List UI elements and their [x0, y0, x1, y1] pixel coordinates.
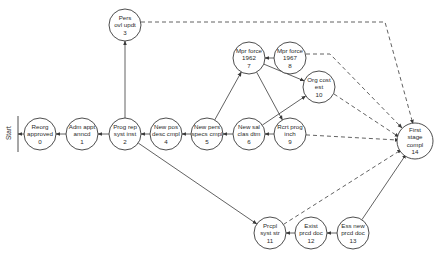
node-0: Reorgapproved0: [24, 118, 56, 150]
node-label: 9: [288, 138, 292, 145]
node-label: approved: [27, 130, 53, 137]
edge-2-11: [138, 143, 257, 224]
node-13: Ess newprcd doc13: [337, 217, 369, 249]
node-10: Org costest10: [303, 71, 335, 103]
start-label: Start: [5, 126, 12, 140]
node-label: 11: [267, 237, 274, 244]
node-label: 6: [247, 138, 251, 145]
node-label: syst str: [260, 229, 280, 236]
edge-5-7: [215, 72, 242, 120]
nodes: Reorgapproved0Adm apptanncd1Prog repsyst…: [24, 9, 433, 249]
node-label: 5: [205, 138, 209, 145]
node-3: Persovl updt3: [109, 9, 141, 41]
node-label: 8: [288, 62, 292, 69]
node-label: Prog rep: [113, 123, 137, 130]
node-label: compl: [407, 141, 424, 148]
node-label: prcd doc: [341, 229, 365, 236]
node-9: Rcrt proginch9: [274, 118, 306, 150]
node-label: New pers: [194, 123, 220, 130]
node-label: New pos: [154, 123, 178, 130]
node-8: Mpr force19678: [274, 42, 306, 74]
node-7: Mpr force19627: [233, 42, 265, 74]
node-label: 13: [350, 237, 357, 244]
node-label: inch: [284, 130, 296, 137]
node-label: 12: [308, 237, 315, 244]
node-label: Prcpl: [263, 222, 277, 229]
node-label: 14: [412, 148, 419, 155]
node-12: Existprcd doc12: [295, 217, 327, 249]
node-label: ovl updt: [114, 21, 136, 28]
start-marker: Start: [5, 116, 18, 152]
network-diagram: Start Reorgapproved0Adm apptanncd1Prog r…: [0, 0, 435, 258]
node-label: 7: [247, 62, 251, 69]
edge-13-14: [362, 154, 406, 219]
node-label: Mpr force: [236, 47, 263, 54]
node-label: clas dtm: [237, 130, 260, 137]
node-label: 3: [123, 29, 127, 36]
node-label: Org cost: [307, 76, 331, 83]
node-label: specs cmpl: [192, 130, 223, 137]
node-14: Firststagecompl14: [397, 123, 433, 159]
node-label: 0: [38, 138, 42, 145]
node-label: New sal: [238, 123, 260, 130]
node-label: 1: [80, 138, 84, 145]
node-label: anncd: [74, 130, 91, 137]
node-11: Prcplsyst str11: [254, 217, 286, 249]
node-label: 1967: [283, 54, 297, 61]
node-1: Adm apptanncd1: [66, 118, 98, 150]
node-label: desc cmpl: [152, 130, 180, 137]
node-label: Pers: [119, 14, 132, 21]
node-label: Adm appt: [69, 123, 96, 130]
node-5: New persspecs cmpl5: [191, 118, 223, 150]
node-4: New posdesc cmpl4: [150, 118, 182, 150]
edge-3-14: [141, 22, 413, 124]
node-label: 4: [164, 138, 168, 145]
node-label: syst inst: [114, 130, 137, 137]
edge-10-14: [334, 94, 399, 137]
node-label: stage: [407, 133, 423, 140]
node-label: Ess new: [341, 222, 365, 229]
node-2: Prog repsyst inst2: [109, 118, 141, 150]
edge-9-14: [306, 135, 399, 140]
node-label: prcd doc: [299, 229, 323, 236]
node-label: Exist: [304, 222, 318, 229]
node-label: First: [409, 126, 421, 133]
edge-7-9: [257, 72, 283, 120]
node-label: 1962: [242, 54, 256, 61]
node-6: New salclas dtm6: [233, 118, 265, 150]
node-label: 2: [123, 138, 127, 145]
node-label: Reorg: [32, 123, 49, 130]
node-label: Mpr force: [277, 47, 304, 54]
node-label: est: [315, 83, 324, 90]
node-label: Rcrt prog: [277, 123, 303, 130]
node-label: 10: [316, 91, 323, 98]
